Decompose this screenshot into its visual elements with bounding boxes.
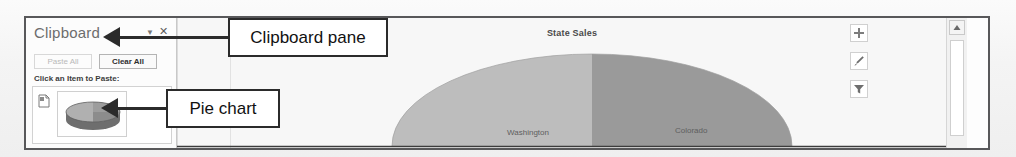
click-item-to-paste-label: Click an Item to Paste: [34,74,119,83]
callout-arrowhead [103,27,120,47]
paintbrush-icon [853,55,865,67]
scroll-up-button[interactable] [949,20,965,35]
callout-pie-chart: Pie chart [166,89,280,128]
chart-filters-button[interactable] [850,80,868,98]
clipboard-pane-title: Clipboard [34,24,100,41]
callout-arrowhead [101,98,118,118]
paste-all-button[interactable]: Paste All [34,54,92,69]
chart-elements-button[interactable] [850,24,868,42]
callout-leader-line [118,107,168,110]
chart-styles-button[interactable] [850,52,868,70]
funnel-icon [853,83,865,95]
scrollbar-thumb[interactable] [950,40,964,136]
clear-all-button[interactable]: Clear All [99,54,157,69]
callout-clipboard-pane: Clipboard pane [228,18,388,57]
pie-slice-label-washington: Washington [507,128,549,137]
plus-icon [853,27,865,39]
pie-slice-label-colorado: Colorado [675,126,707,135]
vertical-scrollbar[interactable] [946,18,967,148]
callout-leader-line [120,36,230,39]
scroll-up-arrow-icon [953,24,961,31]
document-icon [38,94,50,108]
